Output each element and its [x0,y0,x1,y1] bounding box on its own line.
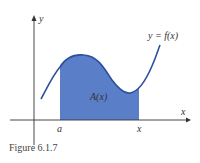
curve-label: y = f(x) [147,30,179,42]
y-axis-label: y [38,13,44,24]
tick-x-label: x [136,123,142,134]
figure-diagram: y x y = f(x) A(x) a x [0,0,200,163]
figure-caption: Figure 6.1.7 [9,142,58,153]
area-label: A(x) [89,91,108,103]
tick-a-label: a [57,123,62,134]
shaded-area [60,55,139,120]
x-axis-arrow-icon [186,118,191,123]
x-axis-label: x [180,106,186,117]
y-axis-arrow-icon [32,15,37,21]
